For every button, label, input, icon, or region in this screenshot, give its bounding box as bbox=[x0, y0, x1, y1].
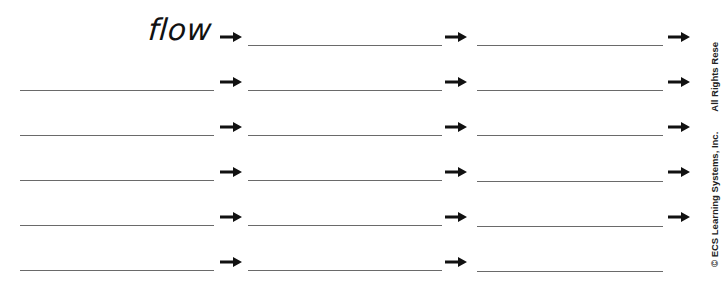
answer-blank[interactable] bbox=[477, 226, 663, 227]
right-arrow-icon bbox=[220, 121, 242, 133]
right-arrow-icon bbox=[220, 76, 242, 88]
right-arrow-icon bbox=[445, 76, 467, 88]
answer-blank[interactable] bbox=[477, 181, 663, 182]
right-arrow-icon bbox=[668, 166, 690, 178]
answer-blank[interactable] bbox=[477, 271, 663, 272]
right-arrow-icon bbox=[220, 166, 242, 178]
answer-blank[interactable] bbox=[248, 270, 442, 271]
answer-blank[interactable] bbox=[477, 45, 663, 46]
right-arrow-icon bbox=[220, 211, 242, 223]
right-arrow-icon bbox=[445, 121, 467, 133]
right-arrow-icon bbox=[445, 256, 467, 268]
answer-blank[interactable] bbox=[248, 45, 442, 46]
answer-blank[interactable] bbox=[477, 135, 663, 136]
right-arrow-icon bbox=[668, 121, 690, 133]
right-arrow-icon bbox=[220, 256, 242, 268]
answer-blank[interactable] bbox=[20, 270, 214, 271]
answer-blank[interactable] bbox=[20, 180, 214, 181]
copyright-notice: © ECS Learning Systems, Inc.All Rights R… bbox=[709, 27, 723, 267]
answer-blank[interactable] bbox=[248, 90, 442, 91]
right-arrow-icon bbox=[668, 76, 690, 88]
answer-blank[interactable] bbox=[248, 135, 442, 136]
answer-blank[interactable] bbox=[477, 90, 663, 91]
right-arrow-icon bbox=[445, 166, 467, 178]
answer-blank[interactable] bbox=[20, 135, 214, 136]
answer-blank[interactable] bbox=[20, 90, 214, 91]
answer-blank[interactable] bbox=[248, 180, 442, 181]
rights-text: All Rights Rese bbox=[709, 42, 720, 112]
copyright-text: © ECS Learning Systems, Inc. bbox=[709, 132, 720, 267]
right-arrow-icon bbox=[445, 31, 467, 43]
start-word: flow bbox=[139, 12, 213, 47]
right-arrow-icon bbox=[668, 31, 690, 43]
answer-blank[interactable] bbox=[20, 225, 214, 226]
answer-blank[interactable] bbox=[248, 225, 442, 226]
right-arrow-icon bbox=[220, 31, 242, 43]
right-arrow-icon bbox=[445, 211, 467, 223]
right-arrow-icon bbox=[668, 211, 690, 223]
